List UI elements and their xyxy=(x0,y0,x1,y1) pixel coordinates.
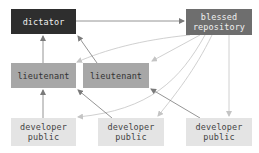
node-lieutenant-1: lieutenant xyxy=(11,63,76,88)
node-developer-public-2: developer public xyxy=(98,118,164,146)
edge-developer-2-to-lieutenant-2 xyxy=(78,90,112,118)
node-developer-public-1: developer public xyxy=(11,118,76,146)
node-blessed-repository-label-line2: repository xyxy=(193,22,245,32)
node-blessed-repository: blessed repository xyxy=(186,9,252,35)
edge-blessed-to-developer-2 xyxy=(158,35,212,116)
edge-blessed-to-lieutenant-1 xyxy=(77,35,190,62)
node-developer-public-1-label-line2: public xyxy=(28,132,59,142)
node-lieutenant-2: lieutenant xyxy=(83,63,149,88)
node-developer-public-3: developer public xyxy=(186,118,252,146)
node-developer-public-3-label-line2: public xyxy=(203,132,234,142)
edge-lieutenant-2-to-dictator xyxy=(78,36,97,63)
node-lieutenant-1-label: lieutenant xyxy=(17,71,69,81)
node-developer-public-2-label-line1: developer xyxy=(108,122,155,132)
node-lieutenant-2-label: lieutenant xyxy=(90,71,142,81)
node-dictator: dictator xyxy=(11,9,76,34)
node-developer-public-2-label-line2: public xyxy=(115,132,146,142)
node-dictator-label: dictator xyxy=(23,17,65,27)
node-developer-public-3-label-line1: developer xyxy=(196,122,243,132)
node-blessed-repository-label-line1: blessed xyxy=(201,12,238,22)
node-developer-public-1-label-line1: developer xyxy=(20,122,67,132)
